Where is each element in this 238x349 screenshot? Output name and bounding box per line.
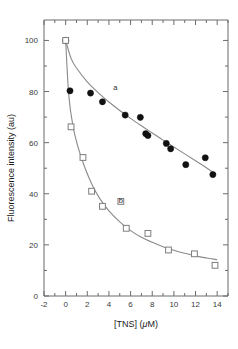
data-point-b: [212, 262, 218, 268]
y-tick-label: 80: [29, 88, 38, 97]
data-point-a: [145, 132, 151, 138]
x-tick-label: 8: [150, 300, 155, 309]
data-point-a: [163, 140, 169, 146]
x-tick-label: 2: [85, 300, 90, 309]
data-point-b: [80, 155, 86, 161]
x-tick-label: 12: [191, 300, 200, 309]
data-point-b: [123, 225, 129, 231]
data-point-b: [100, 203, 106, 209]
data-point-b: [63, 38, 69, 44]
data-markers: [63, 37, 218, 268]
data-point-a: [210, 172, 216, 178]
y-tick-label: 40: [29, 190, 38, 199]
data-point-b: [192, 251, 198, 257]
plot-frame: [44, 20, 228, 296]
curve-label-a: a: [113, 83, 118, 92]
x-tick-label: 0: [63, 300, 68, 309]
y-tick-label: 20: [29, 241, 38, 250]
data-point-a: [137, 114, 143, 120]
y-tick-label: 60: [29, 139, 38, 148]
data-point-a: [202, 155, 208, 161]
x-tick-label: 6: [128, 300, 133, 309]
data-point-b: [145, 230, 151, 236]
data-point-b: [89, 188, 95, 194]
x-axis-ticks: [44, 20, 228, 296]
axes-frame: [44, 20, 228, 296]
fluorescence-quenching-chart: -202468101214 020406080100 ab [TNS] (μM)…: [0, 0, 238, 349]
fit-curve-a: [66, 40, 216, 174]
x-tick-label: 4: [107, 300, 112, 309]
data-point-a: [99, 99, 105, 105]
data-point-b: [68, 124, 74, 130]
y-axis-ticks: [44, 40, 228, 296]
y-tick-label: 100: [25, 36, 39, 45]
data-point-a: [183, 162, 189, 168]
x-axis-tick-labels: -202468101214: [40, 300, 222, 309]
fit-curve-b: [66, 40, 218, 259]
x-tick-label: -2: [40, 300, 48, 309]
curve-labels: ab: [113, 83, 123, 204]
x-tick-label: 14: [213, 300, 222, 309]
x-axis-title: [TNS] (μM): [114, 319, 158, 329]
data-point-a: [67, 88, 73, 94]
y-tick-label: 0: [34, 292, 39, 301]
fit-curves: [66, 40, 218, 259]
curve-label-b: b: [119, 196, 123, 205]
y-axis-tick-labels: 020406080100: [25, 36, 39, 301]
data-point-a: [168, 146, 174, 152]
x-tick-label: 10: [169, 300, 178, 309]
data-point-b: [166, 247, 172, 253]
data-point-a: [87, 90, 93, 96]
data-point-a: [122, 112, 128, 118]
figure-container: -202468101214 020406080100 ab [TNS] (μM)…: [0, 0, 238, 349]
y-axis-title: Fluorescence intensity (au): [6, 114, 16, 222]
